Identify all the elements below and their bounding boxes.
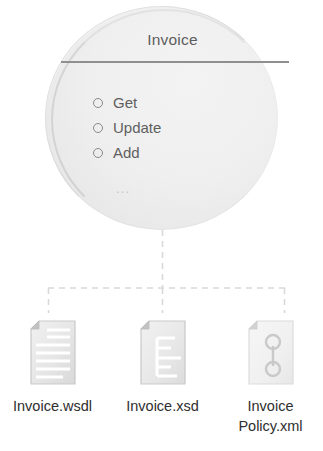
document-policy-icon — [218, 318, 323, 390]
operation-label: Get — [113, 94, 137, 111]
connector-tree — [0, 225, 323, 325]
artifact-xsd[interactable]: Invoice.xsd — [110, 318, 215, 416]
artifact-label-policy-line2: Policy.xml — [218, 416, 323, 436]
circle-bullet-icon — [93, 98, 103, 108]
operation-more-ellipsis: … — [115, 179, 132, 196]
service-title-divider — [61, 61, 289, 63]
operation-label: Add — [113, 144, 140, 161]
artifact-policy[interactable]: Invoice Policy.xml — [218, 318, 323, 436]
service-title: Invoice — [45, 31, 278, 49]
artifact-label-policy-line1: Invoice — [218, 396, 323, 416]
circle-bullet-icon — [93, 148, 103, 158]
artifact-wsdl[interactable]: Invoice.wsdl — [0, 318, 105, 416]
artifact-row: Invoice.wsdl — [0, 318, 323, 451]
operation-item-get[interactable]: Get — [93, 90, 263, 115]
circle-bullet-icon — [93, 123, 103, 133]
service-node[interactable]: Invoice Get Update Add … — [45, 6, 278, 230]
operation-item-update[interactable]: Update — [93, 115, 263, 140]
operation-list: Get Update Add — [93, 90, 263, 165]
artifact-label-policy: Invoice Policy.xml — [218, 396, 323, 436]
operation-item-add[interactable]: Add — [93, 140, 263, 165]
artifact-label-wsdl: Invoice.wsdl — [0, 396, 105, 416]
operation-label: Update — [113, 119, 161, 136]
document-lines-icon — [0, 318, 105, 390]
artifact-label-xsd: Invoice.xsd — [110, 396, 215, 416]
document-tree-icon — [110, 318, 215, 390]
